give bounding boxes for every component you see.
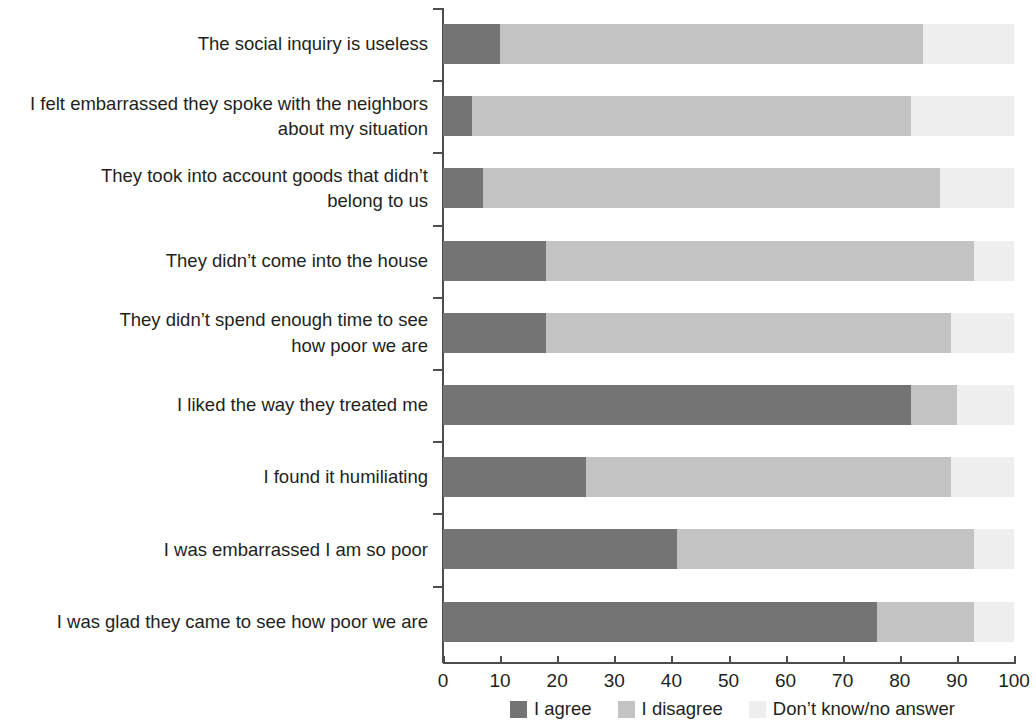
x-axis-tick-label: 70 [813,670,873,692]
category-label-line: about my situation [0,116,428,142]
bar-segment-don-t-know-no-answer [974,241,1014,281]
bar-segment-i-agree [443,457,586,497]
category-label-line: belong to us [0,188,428,214]
bar-segment-don-t-know-no-answer [951,313,1014,353]
plot-area [443,8,1014,658]
bar-segment-i-agree [443,168,483,208]
legend-label: I agree [534,700,592,719]
legend-label: I disagree [642,700,723,719]
x-axis-tick-label: 30 [584,670,644,692]
bar-segment-i-disagree [546,241,974,281]
stacked-bar [443,529,1014,569]
stacked-bar [443,241,1014,281]
bar-segment-i-agree [443,602,877,642]
stacked-bar [443,602,1014,642]
y-axis-tick [433,586,442,588]
bar-segment-don-t-know-no-answer [974,529,1014,569]
category-label-line: I felt embarrassed they spoke with the n… [0,91,428,117]
bar-segment-don-t-know-no-answer [940,168,1014,208]
bar-segment-i-disagree [500,24,923,64]
x-axis-tick [500,656,502,664]
bar-segment-i-disagree [472,96,912,136]
y-axis-tick [433,8,442,10]
bar-row [443,586,1014,658]
category-label: The social inquiry is useless [0,31,428,57]
y-axis-tick [433,80,442,82]
legend-swatch [510,701,527,718]
bar-row [443,513,1014,585]
x-axis-tick [957,656,959,664]
legend-swatch [618,701,635,718]
x-axis-tick-label: 90 [927,670,987,692]
bar-segment-don-t-know-no-answer [951,457,1014,497]
bar-segment-i-agree [443,529,677,569]
x-axis-tick-label: 100 [984,670,1036,692]
x-axis-tick [843,656,845,664]
bar-segment-i-agree [443,385,911,425]
y-axis-tick [433,513,442,515]
category-label-line: I was glad they came to see how poor we … [0,609,428,635]
stacked-bar [443,96,1014,136]
y-axis-tick [433,369,442,371]
bar-segment-i-disagree [677,529,974,569]
bar-segment-i-disagree [877,602,974,642]
bar-row [443,441,1014,513]
category-label-line: They didn’t come into the house [0,248,428,274]
x-axis-tick [614,656,616,664]
legend-item: Don’t know/no answer [749,700,955,719]
x-axis-tick-label: 0 [413,670,473,692]
stacked-bar [443,24,1014,64]
legend-swatch [749,701,766,718]
bar-row [443,225,1014,297]
category-label-line: They took into account goods that didn’t [0,163,428,189]
bar-segment-i-disagree [586,457,951,497]
x-axis-tick-label: 60 [756,670,816,692]
x-axis-tick-label: 80 [870,670,930,692]
category-label-line: I liked the way they treated me [0,392,428,418]
category-label: I liked the way they treated me [0,392,428,418]
bar-row [443,297,1014,369]
x-axis-tick [729,656,731,664]
y-axis-tick [433,225,442,227]
stacked-bar-chart: The social inquiry is uselessI felt emba… [0,0,1036,728]
category-label: I was embarrassed I am so poor [0,537,428,563]
y-axis-tick [433,152,442,154]
bar-segment-i-agree [443,24,500,64]
x-axis-tick-label: 50 [699,670,759,692]
y-axis-tick [433,297,442,299]
bar-row [443,8,1014,80]
bar-row [443,369,1014,441]
category-label: I was glad they came to see how poor we … [0,609,428,635]
bar-segment-don-t-know-no-answer [911,96,1014,136]
x-axis-tick [443,656,445,664]
category-label-line: I found it humiliating [0,464,428,490]
bar-segment-i-agree [443,241,546,281]
stacked-bar [443,313,1014,353]
bar-segment-i-disagree [911,385,957,425]
legend-item: I disagree [618,700,723,719]
y-axis-tick [433,441,442,443]
bar-row [443,80,1014,152]
bar-segment-i-agree [443,96,472,136]
x-axis-tick-label: 10 [470,670,530,692]
bar-segment-i-disagree [483,168,940,208]
x-axis-tick [900,656,902,664]
bar-segment-don-t-know-no-answer [923,24,1014,64]
category-label: They took into account goods that didn’t… [0,163,428,214]
category-label-line: how poor we are [0,333,428,359]
category-label: I found it humiliating [0,464,428,490]
stacked-bar [443,457,1014,497]
legend-label: Don’t know/no answer [773,700,955,719]
x-axis-tick [786,656,788,664]
stacked-bar [443,385,1014,425]
category-label-line: They didn’t spend enough time to see [0,307,428,333]
category-label-line: I was embarrassed I am so poor [0,537,428,563]
bar-segment-don-t-know-no-answer [974,602,1014,642]
x-axis-tick [671,656,673,664]
bar-segment-i-agree [443,313,546,353]
category-label: They didn’t spend enough time to seehow … [0,307,428,358]
bar-segment-don-t-know-no-answer [957,385,1014,425]
chart-legend: I agreeI disagreeDon’t know/no answer [510,700,981,719]
category-label: They didn’t come into the house [0,248,428,274]
bar-row [443,152,1014,224]
